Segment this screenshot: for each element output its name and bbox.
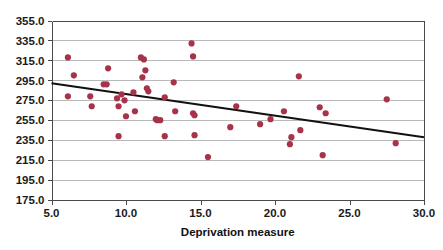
data-point	[172, 108, 178, 114]
data-point	[288, 134, 294, 140]
data-point	[171, 79, 177, 85]
x-tick-label: 15.0	[189, 207, 211, 219]
x-tick-label: 20.0	[264, 207, 286, 219]
y-tick-label: 275.0	[16, 94, 45, 106]
data-point	[71, 72, 77, 78]
data-point	[157, 117, 163, 123]
data-point	[123, 113, 129, 119]
data-point	[132, 108, 138, 114]
data-point	[257, 121, 263, 127]
data-point	[233, 103, 239, 109]
data-point	[115, 103, 121, 109]
data-point	[297, 127, 303, 133]
data-point	[141, 56, 147, 62]
data-point	[188, 40, 194, 46]
data-point	[118, 91, 124, 97]
scatter-plot-figure: 5.010.015.020.025.030.0 175.0195.0215.02…	[0, 0, 443, 250]
data-point	[191, 132, 197, 138]
y-tick-label: 315.0	[16, 55, 45, 67]
data-point	[162, 94, 168, 100]
plot-svg: 5.010.015.020.025.030.0 175.0195.0215.02…	[0, 0, 443, 250]
fitted-regression-line	[52, 83, 425, 137]
data-point	[393, 140, 399, 146]
y-tick-label: 215.0	[16, 154, 45, 166]
data-point	[142, 67, 148, 73]
x-tick-label: 25.0	[338, 207, 360, 219]
data-point	[267, 116, 273, 122]
data-point	[139, 74, 145, 80]
y-tick-label: 175.0	[16, 194, 45, 206]
x-tick-label: 5.0	[44, 207, 60, 219]
y-tick-label: 255.0	[16, 114, 45, 126]
data-point	[115, 133, 121, 139]
y-tickmarks-group	[48, 22, 52, 201]
data-point	[323, 110, 329, 116]
data-point	[227, 124, 233, 130]
data-point	[104, 81, 110, 87]
data-point	[121, 97, 127, 103]
data-point	[287, 141, 293, 147]
data-point	[89, 103, 95, 109]
data-point	[320, 152, 326, 158]
data-point	[384, 96, 390, 102]
y-tick-label: 235.0	[16, 134, 45, 146]
data-point	[296, 73, 302, 79]
data-point	[162, 133, 168, 139]
data-point	[65, 54, 71, 60]
trend-line-group	[52, 83, 425, 137]
data-point	[190, 53, 196, 59]
data-point	[87, 93, 93, 99]
y-tick-labels-group: 175.0195.0215.0235.0255.0275.0295.0315.0…	[16, 15, 45, 207]
data-point	[105, 65, 111, 71]
data-point	[145, 88, 151, 94]
data-point	[281, 108, 287, 114]
y-tick-label: 355.0	[16, 15, 45, 27]
y-tick-label: 295.0	[16, 75, 45, 87]
x-axis-title: Deprivation measure	[181, 226, 295, 238]
x-tick-label: 10.0	[115, 207, 137, 219]
data-point	[130, 89, 136, 95]
data-point	[205, 154, 211, 160]
data-point	[65, 93, 71, 99]
x-tick-label: 30.0	[413, 207, 435, 219]
x-tick-labels-group: 5.010.015.020.025.030.0	[44, 207, 436, 219]
data-point	[191, 112, 197, 118]
data-point	[317, 104, 323, 110]
y-tick-label: 335.0	[16, 35, 45, 47]
y-tick-label: 195.0	[16, 174, 45, 186]
